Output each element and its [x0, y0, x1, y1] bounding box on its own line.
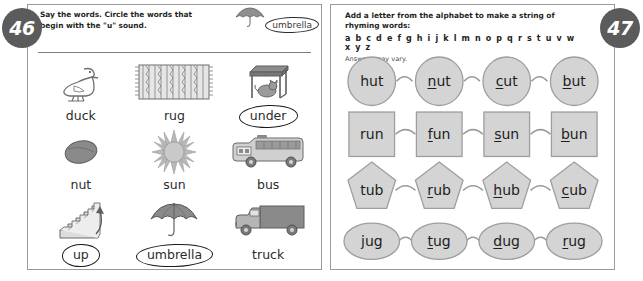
picture-item-bus[interactable]: bus [221, 126, 315, 195]
picture-item-under[interactable]: under [221, 57, 315, 126]
picture-label-sun: sun [158, 177, 190, 194]
right-page: Add a letter from the alphabet to make a… [330, 4, 615, 270]
nut-icon [34, 126, 128, 177]
page-number-badge-right: 47 [600, 8, 640, 48]
rhyme-word-cut[interactable]: cut [496, 73, 518, 89]
rhyme-word-fun[interactable]: fun [428, 126, 451, 142]
rhyme-word-nut[interactable]: nut [428, 73, 451, 89]
rhyme-added-letter: c [561, 182, 569, 198]
rhyming-rows: hut nut cut but [339, 55, 606, 265]
left-example: umbrella [224, 6, 320, 32]
picture-label-truck: truck [247, 247, 289, 264]
right-instruction-text: Add a letter from the alphabet to make a… [345, 11, 580, 32]
picture-label-rug: rug [159, 108, 190, 125]
rug-icon [128, 57, 222, 108]
picture-label-duck: duck [61, 108, 101, 125]
left-page-header: Say the words. Circle the words that beg… [28, 5, 321, 53]
picture-label-up: up [68, 247, 94, 264]
rhyme-word-rub[interactable]: rub [427, 182, 451, 198]
rhyme-word-rug[interactable]: rug [562, 233, 586, 249]
table-cat-icon [221, 57, 315, 108]
duck-icon [34, 57, 128, 108]
alphabet-strip: a b c d e f g h i j k l m n o p q r s t … [345, 34, 580, 52]
rhyme-added-letter: b [561, 126, 570, 142]
picture-item-sun[interactable]: sun [128, 126, 222, 195]
left-example-label: umbrella [272, 20, 312, 30]
rhyme-word-cub[interactable]: cub [561, 182, 586, 198]
sun-icon [128, 126, 222, 177]
umbrella-icon [232, 6, 268, 28]
rhyme-word-but[interactable]: but [563, 73, 586, 89]
rhyme-row-3: tub rub hub cub [339, 160, 606, 213]
rhyme-word-run[interactable]: run [360, 126, 384, 142]
worksheet-spread: 46 Say the words. Circle the words that … [0, 0, 643, 281]
picture-label-nut: nut [65, 177, 96, 194]
picture-item-rug[interactable]: rug [128, 57, 222, 126]
umbrella-icon [128, 196, 222, 247]
picture-item-umbrella[interactable]: umbrella [128, 196, 222, 265]
picture-label-under: under [245, 108, 292, 125]
rhyme-added-letter: c [496, 73, 504, 89]
page-number-badge-left: 46 [2, 8, 42, 48]
bus-icon [221, 126, 315, 177]
picture-item-up[interactable]: up [34, 196, 128, 265]
rhyme-word-bun[interactable]: bun [561, 126, 588, 142]
truck-icon [221, 196, 315, 247]
left-instruction-text: Say the words. Circle the words that beg… [40, 10, 200, 31]
picture-item-nut[interactable]: nut [34, 126, 128, 195]
rhyme-word-tug[interactable]: tug [427, 233, 450, 249]
rhyme-added-letter: h [493, 182, 502, 198]
rhyme-added-letter: n [428, 73, 437, 89]
picture-grid: duck [34, 57, 315, 265]
rhyme-word-hut[interactable]: hut [360, 73, 383, 89]
rhyme-row-2: run fun sun bun [339, 108, 606, 161]
picture-item-truck[interactable]: truck [221, 196, 315, 265]
rhyme-row-4: jug tug dug rug [339, 213, 606, 266]
rhyme-word-dug[interactable]: dug [493, 233, 520, 249]
rhyme-word-jug[interactable]: jug [361, 233, 383, 249]
rhyme-row-1: hut nut cut but [339, 55, 606, 108]
stairs-icon [34, 196, 128, 247]
picture-label-umbrella: umbrella [142, 247, 207, 264]
rhyme-word-hub[interactable]: hub [493, 182, 520, 198]
picture-item-duck[interactable]: duck [34, 57, 128, 126]
left-header-divider [38, 52, 311, 53]
rhyme-added-letter: b [563, 73, 572, 89]
rhyme-added-letter: d [493, 233, 502, 249]
rhyme-word-sun[interactable]: sun [494, 126, 519, 142]
rhyme-word-tub[interactable]: tub [360, 182, 383, 198]
left-page: Say the words. Circle the words that beg… [27, 4, 322, 270]
picture-label-bus: bus [252, 177, 284, 194]
